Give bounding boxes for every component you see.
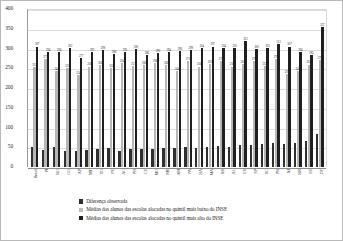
bar-series-2: 302 <box>69 48 71 167</box>
y-axis-tick-label: 350 <box>0 26 13 31</box>
bar-series-2: 304 <box>201 48 203 167</box>
legend-label: Médias dos alunos das escolas alocadas n… <box>86 207 227 212</box>
x-axis-label-cell: RN <box>293 169 304 195</box>
x-axis-tick-label: MT <box>89 169 93 175</box>
bar-group: 58236307 <box>281 10 292 167</box>
legend-label: Médias dos alunos das escolas alocadas n… <box>86 216 223 221</box>
legend-swatch-icon <box>79 208 83 212</box>
x-axis-label-cell: MG <box>149 169 160 195</box>
bar-series-2: 321 <box>244 41 246 167</box>
bar-value-label: 313 <box>276 41 280 44</box>
x-axis-label-cell: AP <box>72 169 83 195</box>
bar-series-2: 298 <box>102 50 104 167</box>
x-axis-tick-label: AM <box>177 169 181 176</box>
bar-value-label: 302 <box>68 45 72 48</box>
x-axis-label-cell: PE <box>105 169 116 195</box>
plot-area: 5225530744275294512442944025330242234277… <box>27 9 327 167</box>
bar-series-2: 300 <box>135 49 137 167</box>
bar-value-label: 288 <box>112 50 116 53</box>
bar-value-label: 357 <box>320 23 324 26</box>
bar-series-2: 298 <box>190 50 192 167</box>
y-axis-tick-label: 0 <box>0 164 13 169</box>
bar-series-2: 303 <box>266 48 268 167</box>
bar-series-2: 285 <box>310 55 312 167</box>
x-axis-tick-label: RS <box>221 169 225 174</box>
bar-series-2: 290 <box>157 53 159 167</box>
chart-container: 400350300250200150100500 522553074427529… <box>0 0 343 241</box>
x-axis-tick-label: MA <box>210 169 214 176</box>
y-axis-tick-label: 400 <box>0 6 13 11</box>
x-axis-tick-label: AL <box>232 169 236 174</box>
x-axis-label-cell: MS <box>160 169 171 195</box>
bar-value-label: 294 <box>46 48 50 51</box>
x-axis-label-cell: AC <box>116 169 127 195</box>
legend-item[interactable]: Médias dos alunos das escolas alocadas n… <box>79 216 227 221</box>
bar-group: 51262307 <box>205 10 216 167</box>
bar-series-2: 303 <box>233 48 235 167</box>
bar-series-2: 294 <box>168 52 170 167</box>
x-axis-label-cell: PA <box>182 169 193 195</box>
bar-group: 44275294 <box>40 10 51 167</box>
bar-value-label: 293 <box>90 48 94 51</box>
x-axis-tick-label: Brasil <box>34 169 38 178</box>
bar-value-label: 304 <box>222 44 226 47</box>
bar-series-2: 294 <box>58 52 60 167</box>
x-axis-labels: BrasilPIROGOAPMTTOPEACPBCEMGMSAMPABAMARS… <box>28 169 326 195</box>
bar-group: 45257300 <box>128 10 139 167</box>
bar-value-label: 298 <box>101 46 105 49</box>
chart-legend: Diferença observadaMédias dos alunos das… <box>79 199 227 221</box>
bar-value-label: 303 <box>265 44 269 47</box>
x-axis-tick-label: SE <box>309 169 313 174</box>
bar-group: 50271298 <box>183 10 194 167</box>
x-axis-label-cell: CE <box>138 169 149 195</box>
bar-group: 51244294 <box>51 10 62 167</box>
bar-series-2: 293 <box>124 52 126 167</box>
x-axis-tick-label: GO <box>67 169 71 175</box>
bar-group: 66261285 <box>303 10 314 167</box>
x-axis-tick-label: SC <box>265 169 269 174</box>
bar-value-label: 303 <box>232 44 236 47</box>
bar-value-label: 285 <box>309 52 313 55</box>
x-axis-label-cell: PB <box>127 169 138 195</box>
y-axis-tick-label: 150 <box>0 105 13 110</box>
bar-value-label: 307 <box>287 43 291 46</box>
y-axis-tick-label: 100 <box>0 125 13 130</box>
bar-group: 40264293 <box>117 10 128 167</box>
y-axis-tick-label: 300 <box>0 46 13 51</box>
bar-series-2: 293 <box>91 52 93 167</box>
bar-series-2: 304 <box>222 48 224 167</box>
x-axis-tick-label: AC <box>122 169 126 175</box>
x-axis-label-cell: SC <box>260 169 271 195</box>
legend-item[interactable]: Diferença observada <box>79 199 227 204</box>
x-axis-label-cell: AL <box>227 169 238 195</box>
y-axis-tick-label: 200 <box>0 85 13 90</box>
x-axis-label-cell: BA <box>193 169 204 195</box>
bar-value-label: 294 <box>298 48 302 51</box>
bar-value-label: 286 <box>145 51 149 54</box>
plot-wrapper: 5225530744275294512442944025330242234277… <box>27 9 327 167</box>
bar-series-2: 313 <box>277 44 279 167</box>
x-axis-label-cell: RS <box>216 169 227 195</box>
bar-group: 62245294 <box>292 10 303 167</box>
bar-group: 40253302 <box>62 10 73 167</box>
legend-swatch-icon <box>79 216 83 220</box>
x-axis-tick-label: RN <box>298 169 302 175</box>
y-axis-tick-label: 50 <box>0 144 13 149</box>
bar-series-2: 300 <box>255 49 257 167</box>
bar-series-2: 294 <box>47 52 49 167</box>
x-axis-tick-label: PA <box>188 169 192 174</box>
x-axis-tick-label: PE <box>111 169 115 174</box>
bar-value-label: 298 <box>189 46 193 49</box>
bar-value-label: 307 <box>211 43 215 46</box>
x-axis-label-cell: DF <box>315 169 326 195</box>
bar-group: 57262321 <box>237 10 248 167</box>
bar-value-label: 300 <box>254 46 258 49</box>
x-axis-label-cell: Brasil <box>28 169 39 195</box>
x-axis-tick-label: TO <box>100 169 104 174</box>
legend-item[interactable]: Médias dos alunos das escolas alocadas n… <box>79 207 227 212</box>
bar-series-2: 286 <box>146 55 148 167</box>
x-axis-tick-label: ES <box>243 169 247 174</box>
bar-value-label: 296 <box>178 47 182 50</box>
x-axis-tick-label: PB <box>133 169 137 174</box>
x-axis-tick-label: DF <box>320 169 324 174</box>
